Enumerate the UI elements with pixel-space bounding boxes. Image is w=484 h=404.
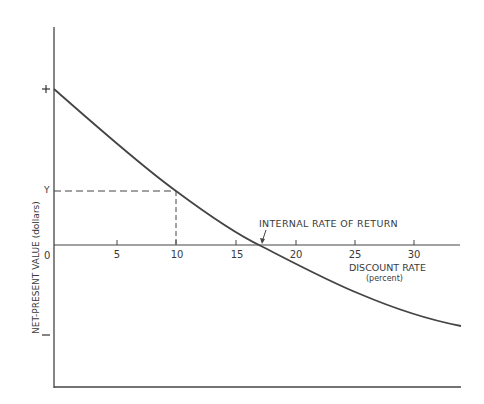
- tick-10: 10: [171, 249, 184, 260]
- tick-30: 30: [408, 249, 421, 260]
- x-axis-sublabel: (percent): [366, 274, 403, 283]
- y-marker-label: Y: [44, 185, 50, 195]
- irr-arrowhead: [260, 238, 265, 244]
- x-axis-label: DISCOUNT RATE: [349, 262, 426, 273]
- x-ticks: [117, 240, 414, 245]
- tick-25: 25: [349, 249, 362, 260]
- tick-15: 15: [231, 249, 244, 260]
- zero-label: 0: [44, 250, 50, 261]
- npv-curve: [54, 89, 461, 326]
- y-axis-label: NET-PRESENT VALUE (dollars): [31, 201, 41, 334]
- tick-20: 20: [290, 249, 303, 260]
- irr-label: INTERNAL RATE OF RETURN: [259, 218, 398, 229]
- npv-diagram: [0, 0, 484, 404]
- tick-5: 5: [114, 249, 120, 260]
